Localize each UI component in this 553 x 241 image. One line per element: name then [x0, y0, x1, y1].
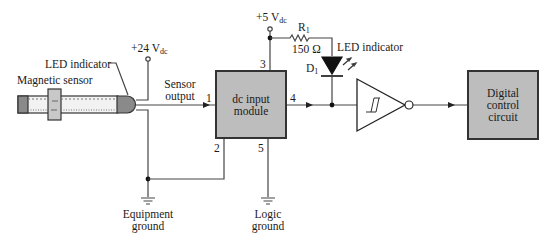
- pin-4-label: 4: [290, 92, 296, 104]
- supply-5v-sub: dc: [279, 16, 287, 25]
- sensor-output-label: Sensor output: [158, 78, 202, 102]
- digital-control-circuit-block: Digital control circuit: [467, 70, 539, 140]
- digital-control-label-line1: Digital: [487, 87, 520, 99]
- equipment-ground-line2: ground: [118, 220, 178, 232]
- magnetic-sensor-icon: [18, 89, 136, 120]
- supply-5v-value: +5 V: [256, 11, 279, 23]
- equipment-ground-line1: Equipment: [118, 208, 178, 220]
- dc-input-module-label-line1: dc input: [232, 93, 269, 105]
- supply-24v-value: +24 V: [131, 42, 160, 54]
- pin-2-label: 2: [214, 142, 220, 154]
- r1-name: R: [298, 21, 306, 33]
- sensor-output-line2: output: [158, 90, 202, 102]
- supply-5v-label: +5 Vdc: [256, 11, 287, 27]
- pin-5-label: 5: [258, 142, 264, 154]
- dc-input-module-label-line2: module: [232, 105, 269, 117]
- led-diode-icon: [321, 57, 356, 105]
- led-indicator-d1-label: LED indicator: [337, 41, 403, 53]
- dc-input-module-block: dc input module: [215, 70, 287, 139]
- d1-sub: 1: [314, 67, 318, 76]
- supply-24v-label: +24 Vdc: [131, 42, 168, 58]
- led-indicator-sensor-label: LED indicator: [45, 58, 111, 70]
- magnetic-sensor-label: Magnetic sensor: [17, 74, 93, 86]
- logic-ground-line1: Logic: [243, 208, 293, 220]
- schmitt-inverter-icon: [357, 79, 413, 131]
- d1-label: D1: [306, 62, 318, 78]
- logic-ground-label: Logic ground: [243, 208, 293, 232]
- logic-ground-icon: [261, 198, 275, 204]
- r1-label: R1: [298, 21, 310, 37]
- sensor-output-line1: Sensor: [158, 78, 202, 90]
- r1-value-label: 150 Ω: [292, 43, 321, 55]
- equipment-ground-icon: [141, 198, 155, 204]
- digital-control-label-line3: circuit: [487, 111, 520, 123]
- pin-3-label: 3: [260, 58, 266, 70]
- supply-5v-terminal-icon: [268, 27, 272, 31]
- pin-1-label: 1: [206, 92, 212, 104]
- supply-24v-sub: dc: [160, 47, 168, 56]
- digital-control-label-line2: control: [487, 99, 520, 111]
- logic-ground-line2: ground: [243, 220, 293, 232]
- equipment-ground-label: Equipment ground: [118, 208, 178, 232]
- r1-sub: 1: [306, 26, 310, 35]
